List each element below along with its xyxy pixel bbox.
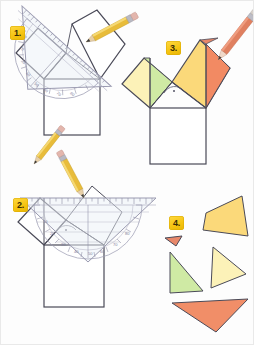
left-tilted-square — [122, 58, 172, 108]
svg-text:70: 70 — [113, 242, 118, 247]
triangle-green — [170, 252, 203, 293]
svg-text:40: 40 — [74, 249, 79, 254]
step-badge-3: 3. — [166, 41, 181, 55]
panel-3-figure — [126, 0, 254, 172]
triangle-pale-yellow — [211, 247, 246, 288]
svg-text:60: 60 — [100, 249, 105, 254]
triangle-large-yellow — [203, 196, 248, 236]
svg-text:20: 20 — [50, 231, 55, 236]
pencil-icon[interactable] — [215, 8, 254, 62]
svg-text:80: 80 — [125, 231, 130, 236]
triangle-tiny-red — [165, 236, 182, 246]
svg-text:50: 50 — [88, 251, 93, 256]
step-badge-4: 4. — [169, 216, 184, 230]
panel-1: 1. — [0, 0, 130, 172]
base-square — [150, 108, 206, 164]
panel-3: 3. — [126, 0, 254, 172]
panel-2-figure: 1020 3040 5060 7080 — [0, 160, 162, 345]
step-badge-1: 1. — [10, 26, 25, 40]
panel-4: 4. — [160, 195, 254, 345]
worksheet-page: 1. — [0, 0, 254, 345]
step-badge-2: 2. — [13, 198, 28, 212]
svg-text:30: 30 — [61, 242, 66, 247]
triangle-orange — [172, 299, 248, 332]
svg-text:10: 10 — [43, 219, 48, 224]
panel-2: 2. — [0, 160, 162, 345]
